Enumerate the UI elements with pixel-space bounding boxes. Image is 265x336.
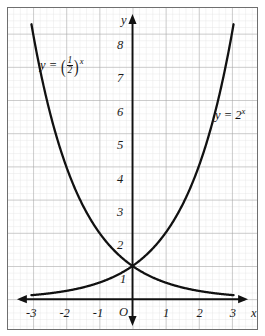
decay-label-paren-open: ( [61, 57, 66, 76]
x-tick-label-neg1: -1 [93, 307, 103, 320]
y-tick-label-2: 2 [117, 239, 123, 252]
decay-label-equals: = [49, 58, 57, 72]
origin-label: O [119, 306, 128, 319]
growth-label-equals: = [224, 108, 232, 122]
y-axis-arrow-up [128, 14, 136, 24]
y-tick-label-5: 5 [117, 139, 123, 152]
y-tick-label-7: 7 [117, 72, 123, 85]
y-axis-arrow-down [128, 316, 136, 326]
x-tick-label-1: 1 [163, 307, 169, 320]
y-tick-label-6: 6 [117, 106, 123, 119]
x-tick-label-neg3: -3 [26, 307, 36, 320]
x-tick-label-3: 3 [230, 307, 236, 320]
x-axis-arrow-left [17, 295, 27, 303]
x-axis-arrow-right [238, 295, 248, 303]
x-axis-name: x [251, 307, 257, 320]
decay-label-denominator: 2 [67, 65, 74, 76]
growth-label-exponent: x [242, 106, 246, 116]
growth-curve-label: y = 2x [215, 107, 245, 122]
exponential-functions-graph: 8 7 6 5 4 3 2 1 -3 -2 -1 1 2 3 O x y y =… [0, 0, 265, 336]
decay-label-exponent: x [80, 56, 84, 66]
x-tick-label-neg2: -2 [59, 307, 69, 320]
y-tick-label-1: 1 [120, 273, 126, 286]
y-tick-label-3: 3 [117, 206, 123, 219]
y-axis [128, 14, 136, 326]
y-tick-label-8: 8 [117, 39, 123, 52]
decay-label-lhs: y [40, 58, 46, 72]
y-tick-label-4: 4 [117, 173, 123, 186]
decay-label-paren-close: ) [74, 57, 79, 76]
growth-label-lhs: y [215, 108, 221, 122]
plot-frame: 8 7 6 5 4 3 2 1 -3 -2 -1 1 2 3 O x y y =… [7, 7, 258, 330]
y-axis-name: y [121, 14, 127, 27]
x-tick-label-2: 2 [196, 307, 202, 320]
decay-label-numerator: 1 [67, 56, 74, 66]
decay-curve-label: y = (12)x [40, 56, 83, 76]
decay-label-fraction: 12 [67, 56, 74, 76]
